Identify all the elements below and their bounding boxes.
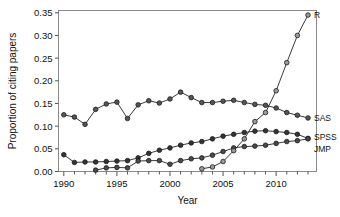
- data-point: [168, 97, 173, 102]
- data-point: [221, 134, 226, 139]
- data-point: [253, 102, 258, 107]
- data-point: [210, 137, 215, 142]
- data-point: [146, 98, 151, 103]
- data-point: [210, 153, 215, 158]
- x-tick-label: 2000: [159, 178, 180, 189]
- data-point: [221, 99, 226, 104]
- data-point: [189, 157, 194, 162]
- data-point: [125, 116, 130, 121]
- data-point: [93, 168, 98, 173]
- data-point: [210, 165, 215, 170]
- data-point: [295, 113, 300, 118]
- x-tick-label: 1995: [106, 178, 127, 189]
- y-tick-label: 0.00: [34, 166, 53, 177]
- data-point: [200, 156, 205, 161]
- data-point: [295, 33, 300, 38]
- data-point: [200, 166, 205, 171]
- series-label-r: R: [314, 10, 320, 20]
- data-point: [200, 139, 205, 144]
- series-label-spss: SPSS: [314, 132, 337, 142]
- data-point: [189, 141, 194, 146]
- data-point: [274, 129, 279, 134]
- data-point: [136, 103, 141, 108]
- data-point: [178, 143, 183, 148]
- data-point: [62, 113, 67, 118]
- data-point: [221, 159, 226, 164]
- data-point: [274, 141, 279, 146]
- data-point: [62, 152, 67, 157]
- data-point: [178, 158, 183, 163]
- y-tick-label: 0.15: [34, 98, 53, 109]
- data-point: [242, 100, 247, 105]
- data-point: [221, 149, 226, 154]
- data-point: [231, 98, 236, 103]
- data-point: [306, 137, 311, 142]
- data-point: [72, 115, 77, 120]
- data-point: [274, 88, 279, 93]
- data-point: [104, 166, 109, 171]
- y-tick-label: 0.10: [34, 121, 53, 132]
- data-point: [263, 110, 268, 115]
- data-point: [263, 128, 268, 133]
- series-label-sas: SAS: [314, 113, 331, 123]
- y-tick-label: 0.35: [34, 7, 53, 18]
- data-point: [253, 119, 258, 124]
- data-point: [242, 137, 247, 142]
- data-point: [253, 144, 258, 149]
- line-chart-canvas: 0.000.050.100.150.200.250.300.35 1990199…: [0, 0, 340, 217]
- data-point: [210, 100, 215, 105]
- data-point: [178, 90, 183, 95]
- data-point: [115, 100, 120, 105]
- data-point: [157, 148, 162, 153]
- data-point: [168, 146, 173, 151]
- y-tick-label: 0.25: [34, 53, 53, 64]
- data-point: [93, 160, 98, 165]
- y-tick-label: 0.30: [34, 30, 53, 41]
- data-point: [284, 60, 289, 65]
- data-point: [263, 143, 268, 148]
- data-point: [104, 159, 109, 164]
- data-point: [125, 166, 130, 171]
- data-point: [115, 159, 120, 164]
- data-point: [274, 106, 279, 111]
- data-point: [83, 160, 88, 165]
- data-point: [125, 158, 130, 163]
- data-point: [189, 95, 194, 100]
- data-point: [231, 148, 236, 153]
- data-point: [306, 116, 311, 121]
- data-point: [72, 160, 77, 165]
- data-point: [306, 13, 311, 18]
- data-point: [200, 100, 205, 105]
- data-point: [295, 132, 300, 137]
- data-point: [168, 162, 173, 167]
- x-tick-label: 1990: [53, 178, 74, 189]
- chart-figure: 0.000.050.100.150.200.250.300.35 1990199…: [0, 0, 340, 217]
- data-point: [93, 107, 98, 112]
- data-point: [104, 102, 109, 107]
- x-axis-title: Year: [177, 195, 198, 206]
- data-point: [157, 101, 162, 106]
- y-tick-label: 0.05: [34, 143, 53, 154]
- x-tick-label: 2005: [212, 178, 233, 189]
- data-point: [284, 110, 289, 115]
- data-point: [263, 103, 268, 108]
- y-axis-title: Proportion of citing papers: [7, 33, 18, 150]
- data-point: [231, 132, 236, 137]
- data-point: [284, 130, 289, 135]
- data-point: [146, 158, 151, 163]
- data-point: [136, 159, 141, 164]
- data-point: [242, 144, 247, 149]
- data-point: [115, 165, 120, 170]
- data-point: [157, 158, 162, 163]
- series-label-jmp: JMP: [314, 144, 331, 154]
- y-tick-label: 0.20: [34, 75, 53, 86]
- x-tick-label: 2010: [266, 178, 287, 189]
- data-point: [284, 139, 289, 144]
- data-point: [253, 129, 258, 134]
- data-point: [146, 151, 151, 156]
- data-point: [295, 138, 300, 143]
- data-point: [242, 130, 247, 135]
- data-point: [83, 122, 88, 127]
